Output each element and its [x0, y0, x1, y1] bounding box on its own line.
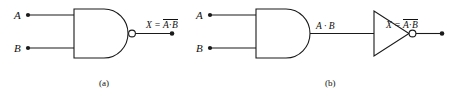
circuit-b-caption: (b)	[325, 78, 336, 88]
circuit-b-intermediate-label: A · B	[316, 21, 335, 31]
circuit-a-output-expression: X = A·B	[146, 19, 178, 30]
circuit-a-caption: (a)	[99, 78, 109, 88]
circuit-a-output-prefix: X =	[146, 20, 161, 30]
circuit-a-input-a-terminal	[26, 13, 30, 17]
and-gate-body	[256, 9, 310, 58]
circuit-a-output-overline-group: A·B	[163, 19, 178, 30]
circuit-drawing-layer	[0, 0, 457, 94]
circuit-a-input-a-label: A	[14, 10, 21, 21]
circuit-a-output-terminal	[170, 31, 175, 36]
circuit-b-output-operand-b: B	[412, 20, 418, 30]
nand-gate-body	[74, 9, 128, 58]
logic-gate-figure: A B X = A·B (a) A B A · B X = A·B (b)	[0, 0, 457, 94]
circuit-b-output-prefix: X =	[386, 20, 401, 30]
circuit-b-input-a-label: A	[196, 10, 203, 21]
nand-gate-bubble-icon	[129, 30, 136, 37]
circuit-b-group	[208, 9, 444, 58]
inverter-gate-bubble-icon	[409, 30, 416, 37]
circuit-b-input-b-label: B	[196, 43, 203, 54]
circuit-b-output-terminal	[440, 31, 445, 36]
circuit-a-input-b-label: B	[14, 43, 21, 54]
circuit-b-input-b-terminal	[208, 46, 212, 50]
inverter-gate-body	[374, 11, 409, 56]
circuit-b-output-expression: X = A·B	[386, 19, 418, 30]
circuit-a-input-b-terminal	[26, 46, 30, 50]
circuit-a-group	[26, 9, 174, 58]
circuit-b-input-a-terminal	[208, 13, 212, 17]
circuit-a-output-operand-b: B	[172, 20, 178, 30]
circuit-b-output-overline-group: A·B	[403, 19, 418, 30]
